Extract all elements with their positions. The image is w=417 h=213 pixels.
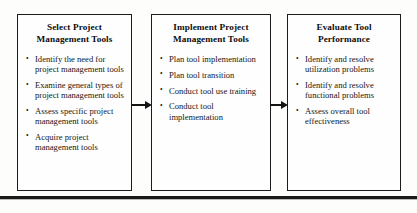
list-item: Identify and resolve functional problems — [296, 80, 395, 100]
list-item: Assess specific project management tools — [26, 106, 126, 126]
list-item: Assess overall tool effectiveness — [296, 106, 395, 126]
box-title-line: Select Project — [24, 22, 125, 34]
bullet-list-implement: Plan tool implementation Plan tool trans… — [152, 54, 270, 122]
process-flow-diagram: Select Project Management Tools Identify… — [0, 0, 417, 213]
box-title-line: Management Tools — [24, 34, 125, 46]
list-item: Identify the need for project management… — [26, 54, 126, 74]
box-title-evaluate: Evaluate Tool Performance — [294, 22, 394, 45]
list-item: Plan tool transition — [160, 70, 265, 80]
box-title-line: Performance — [294, 34, 394, 46]
list-item: Examine general types of project managem… — [26, 80, 126, 100]
list-item: Plan tool implementation — [160, 54, 265, 64]
footer-divider-shadow — [0, 199, 417, 200]
bullet-list-select: Identify the need for project management… — [18, 54, 131, 152]
bullet-list-evaluate: Identify and resolve utilization problem… — [288, 54, 400, 126]
list-item: Conduct tool use training — [160, 86, 265, 96]
box-title-line: Evaluate Tool — [294, 22, 394, 34]
arrow-box2-to-box3-icon — [270, 100, 288, 110]
arrow-box1-to-box2-icon — [131, 100, 152, 110]
process-box-evaluate-tool-performance: Evaluate Tool Performance Identify and r… — [287, 14, 401, 191]
box-title-line: Implement Project — [158, 22, 264, 34]
box-title-select: Select Project Management Tools — [24, 22, 125, 45]
process-box-implement-project-management-tools: Implement Project Management Tools Plan … — [151, 14, 271, 191]
diagram-canvas: Select Project Management Tools Identify… — [0, 0, 417, 213]
box-title-line: Management Tools — [158, 34, 264, 46]
list-item: Identify and resolve utilization problem… — [296, 54, 395, 74]
list-item: Conduct tool implementation — [160, 101, 265, 121]
list-item: Acquire project management tools — [26, 132, 126, 152]
arrow-shaft — [131, 104, 146, 106]
box-title-implement: Implement Project Management Tools — [158, 22, 264, 45]
process-box-select-project-management-tools: Select Project Management Tools Identify… — [17, 14, 132, 191]
